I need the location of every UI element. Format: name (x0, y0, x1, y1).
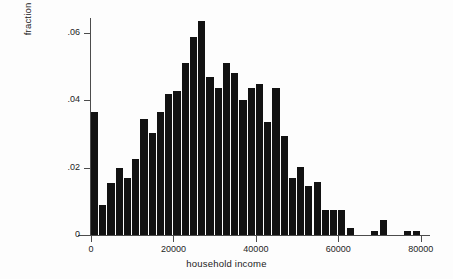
histogram-bar (297, 167, 304, 235)
histogram-bar (330, 210, 337, 235)
x-tick-mark (421, 236, 422, 242)
histogram-bar (223, 63, 230, 235)
y-tick-mark (84, 33, 91, 34)
y-tick-mark (84, 168, 91, 169)
y-tick-label-wrap: .04 (20, 100, 80, 101)
histogram-bar (305, 186, 312, 235)
histogram-bar (157, 112, 164, 235)
histogram-bar (206, 77, 213, 235)
x-tick-label: 40000 (226, 244, 286, 254)
histogram-bar (198, 21, 205, 235)
histogram-bar (338, 210, 345, 235)
histogram-bar (380, 220, 387, 235)
histogram-bars (91, 18, 431, 235)
y-tick-label-wrap: 0 (20, 235, 80, 236)
histogram-bar (248, 88, 255, 235)
histogram-bar (256, 84, 263, 235)
y-tick-label: .02 (20, 162, 80, 172)
histogram-bar (165, 94, 172, 235)
y-tick-label: .04 (20, 94, 80, 104)
histogram-bar (173, 91, 180, 235)
histogram-bar (215, 88, 222, 235)
x-tick-mark (256, 236, 257, 242)
x-tick-label: 20000 (143, 244, 203, 254)
histogram-bar (190, 37, 197, 235)
y-tick-mark (84, 100, 91, 101)
x-axis-title: household income (0, 258, 453, 269)
histogram-bar (264, 122, 271, 235)
histogram-bar (272, 88, 279, 235)
y-tick-label-wrap: .02 (20, 168, 80, 169)
histogram-bar (289, 178, 296, 235)
histogram-bar (140, 119, 147, 235)
histogram-bar (124, 178, 131, 235)
histogram-bar (91, 112, 98, 235)
y-tick-label: .06 (20, 27, 80, 37)
histogram-bar (281, 136, 288, 235)
x-tick-label: 80000 (391, 244, 451, 254)
histogram-bar (99, 205, 106, 235)
histogram-figure: fraction of cases 0.02.04.06 02000040000… (0, 0, 453, 279)
histogram-bar (371, 231, 378, 235)
histogram-bar (314, 182, 321, 235)
histogram-bar (116, 168, 123, 235)
histogram-bar (404, 231, 411, 235)
histogram-bar (322, 210, 329, 235)
x-tick-mark (173, 236, 174, 242)
histogram-bar (107, 183, 114, 235)
histogram-bar (132, 159, 139, 235)
histogram-bar (149, 133, 156, 235)
histogram-bar (239, 100, 246, 235)
x-tick-mark (91, 236, 92, 242)
x-tick-label: 0 (61, 244, 121, 254)
histogram-bar (347, 228, 354, 235)
y-tick-mark (84, 235, 91, 236)
y-tick-label-wrap: .06 (20, 33, 80, 34)
x-tick-mark (338, 236, 339, 242)
histogram-bar (182, 63, 189, 235)
y-tick-label: 0 (20, 229, 80, 239)
x-axis-line (78, 235, 430, 236)
x-tick-label: 60000 (308, 244, 368, 254)
histogram-bar (231, 73, 238, 235)
histogram-bar (413, 231, 420, 235)
